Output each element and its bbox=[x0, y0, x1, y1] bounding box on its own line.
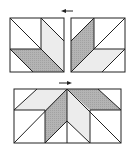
arrow-right-icon bbox=[59, 81, 72, 85]
top-right-block bbox=[71, 18, 125, 72]
bottom-joined-block bbox=[14, 89, 121, 143]
quilt-diagram bbox=[0, 0, 130, 151]
top-left-block bbox=[10, 18, 64, 72]
arrow-left-icon bbox=[61, 9, 73, 13]
